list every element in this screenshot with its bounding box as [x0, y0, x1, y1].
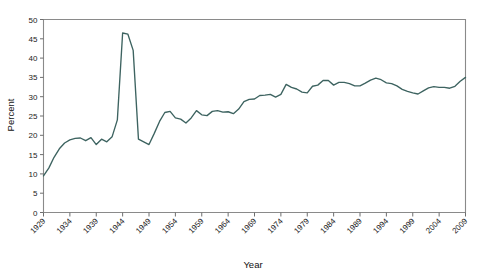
x-tick-label: 1934	[55, 216, 74, 235]
y-tick-label: 0	[33, 209, 38, 218]
x-tick-label: 1949	[134, 216, 153, 235]
series-path-percent	[44, 33, 466, 176]
x-tick-label: 1989	[345, 216, 364, 235]
y-tick-label: 25	[29, 112, 38, 121]
y-tick-label: 50	[29, 16, 38, 25]
x-tick-label: 1994	[371, 216, 390, 235]
chart-figure: 05101520253035404550 1929193419391944194…	[0, 0, 479, 276]
x-axis-title: Year	[243, 259, 262, 270]
x-tick-label: 1939	[81, 216, 100, 235]
x-tick-label: 1974	[266, 216, 285, 235]
plot-frame	[44, 20, 466, 213]
y-tick-label: 35	[29, 73, 38, 82]
y-axis-ticks: 05101520253035404550	[29, 16, 44, 218]
y-tick-label: 30	[29, 93, 38, 102]
data-series-line	[44, 33, 466, 176]
y-tick-label: 5	[33, 189, 38, 198]
x-tick-label: 1929	[28, 216, 47, 235]
x-axis-ticks: 1929193419391944194919541959196419691974…	[28, 213, 469, 236]
y-tick-label: 10	[29, 170, 38, 179]
y-tick-label: 20	[29, 131, 38, 140]
x-tick-label: 1954	[160, 216, 179, 235]
x-tick-label: 2004	[424, 216, 443, 235]
y-tick-label: 40	[29, 54, 38, 63]
x-tick-label: 1944	[108, 216, 127, 235]
y-axis-title: Percent	[5, 98, 16, 131]
x-tick-label: 2009	[450, 216, 469, 235]
y-tick-label: 15	[29, 151, 38, 160]
x-tick-label: 1959	[187, 216, 206, 235]
x-tick-label: 1999	[398, 216, 417, 235]
x-tick-label: 1984	[319, 216, 338, 235]
line-chart: 05101520253035404550 1929193419391944194…	[0, 0, 479, 276]
axis-frame	[44, 20, 466, 213]
y-tick-label: 45	[29, 35, 38, 44]
x-tick-label: 1969	[239, 216, 258, 235]
x-tick-label: 1979	[292, 216, 311, 235]
x-tick-label: 1964	[213, 216, 232, 235]
